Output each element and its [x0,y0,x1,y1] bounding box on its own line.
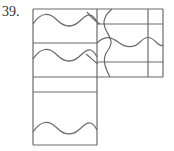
net-diagram [0,0,174,151]
wave-right-vertical [104,9,112,77]
wave-left-top [33,14,97,26]
wave-right-top-left-diagonal [87,12,100,24]
right-block-frame [97,9,163,77]
wave-right-horizontal [97,38,163,47]
wave-left-bottom [33,122,97,134]
